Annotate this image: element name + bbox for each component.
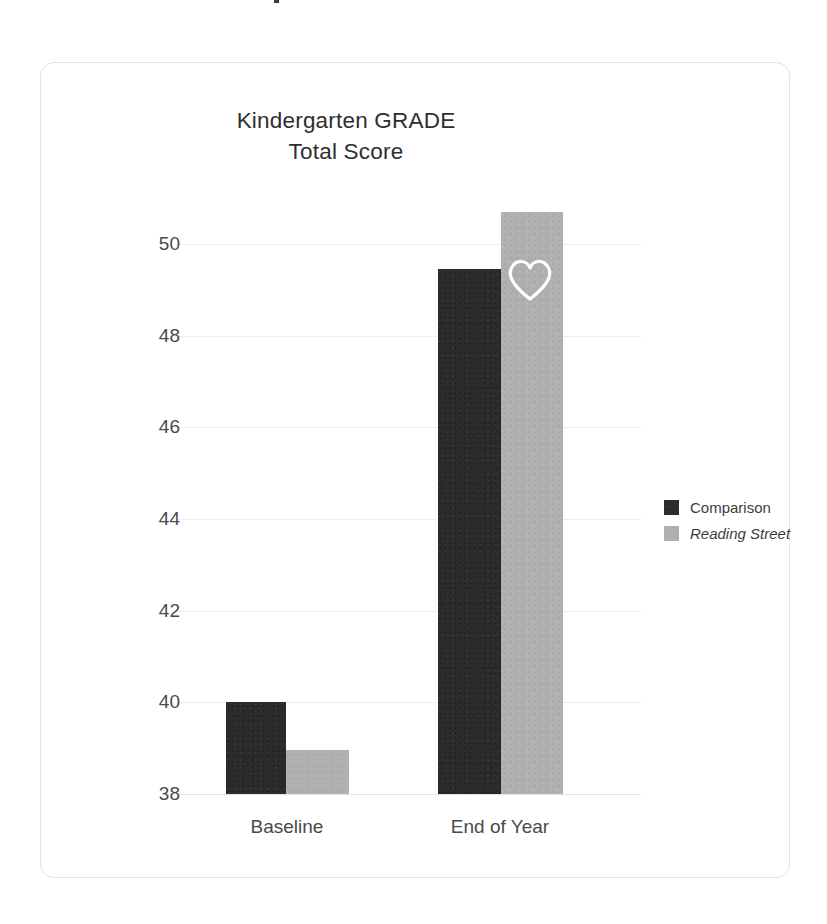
x-axis-tick-end-of-year: End of Year — [451, 816, 549, 838]
gridline-42 — [177, 611, 641, 612]
bar-end-of-year-reading-street — [501, 212, 563, 794]
clipped-text-fragment — [274, 0, 279, 3]
chart-legend: Comparison Reading Street — [664, 494, 790, 546]
y-axis-tick-48: 48 — [159, 325, 180, 347]
legend-swatch-comparison — [664, 500, 679, 515]
chart-title: Kindergarten GRADE Total Score — [41, 105, 651, 167]
bar-end-of-year-comparison — [438, 269, 501, 794]
x-axis-tick-baseline: Baseline — [251, 816, 324, 838]
chart-card: Kindergarten GRADE Total Score 50 48 46 … — [40, 62, 790, 878]
legend-label-reading-street: Reading Street — [690, 525, 790, 542]
legend-item-comparison[interactable]: Comparison — [664, 494, 790, 520]
y-axis-tick-44: 44 — [159, 508, 180, 530]
bar-baseline-reading-street — [286, 750, 349, 794]
gridline-50 — [177, 244, 641, 245]
y-axis-tick-46: 46 — [159, 416, 180, 438]
plot-area: 50 48 46 44 42 40 38 Baseline End of Yea… — [191, 244, 641, 794]
bar-baseline-comparison — [226, 702, 286, 794]
y-axis-tick-50: 50 — [159, 233, 180, 255]
y-axis-tick-40: 40 — [159, 691, 180, 713]
gridline-44 — [177, 519, 641, 520]
legend-item-reading-street[interactable]: Reading Street — [664, 520, 790, 546]
gridline-48 — [177, 336, 641, 337]
legend-label-comparison: Comparison — [690, 499, 771, 516]
y-axis-tick-38: 38 — [159, 783, 180, 805]
gridline-46 — [177, 427, 641, 428]
y-axis-tick-42: 42 — [159, 600, 180, 622]
gridline-38 — [177, 794, 641, 795]
legend-swatch-reading-street — [664, 526, 679, 541]
